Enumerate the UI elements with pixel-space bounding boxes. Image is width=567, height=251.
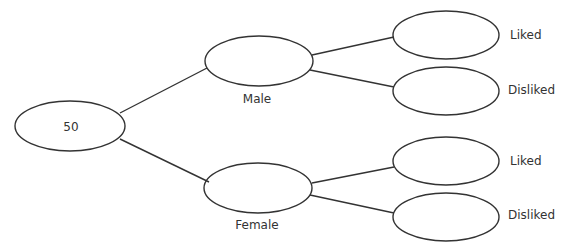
male-disliked-label: Disliked xyxy=(508,83,555,97)
male-node xyxy=(205,36,313,86)
female-disliked-label: Disliked xyxy=(508,208,555,222)
male-label: Male xyxy=(243,92,271,106)
female-liked-node xyxy=(393,137,499,185)
edge-root-male xyxy=(120,68,207,113)
female-node xyxy=(204,163,312,213)
edge-male-liked xyxy=(312,37,394,55)
root-label: 50 xyxy=(63,120,78,134)
edge-male-disliked xyxy=(310,70,394,87)
edge-female-disliked xyxy=(310,195,394,213)
tree-diagram xyxy=(0,0,567,251)
female-disliked-node xyxy=(393,193,499,241)
male-liked-node xyxy=(393,11,499,59)
female-liked-label: Liked xyxy=(510,154,542,168)
male-liked-label: Liked xyxy=(510,28,542,42)
female-label: Female xyxy=(235,218,278,232)
male-disliked-node xyxy=(393,67,499,115)
edge-root-female xyxy=(120,139,209,182)
edge-female-liked xyxy=(312,167,394,183)
